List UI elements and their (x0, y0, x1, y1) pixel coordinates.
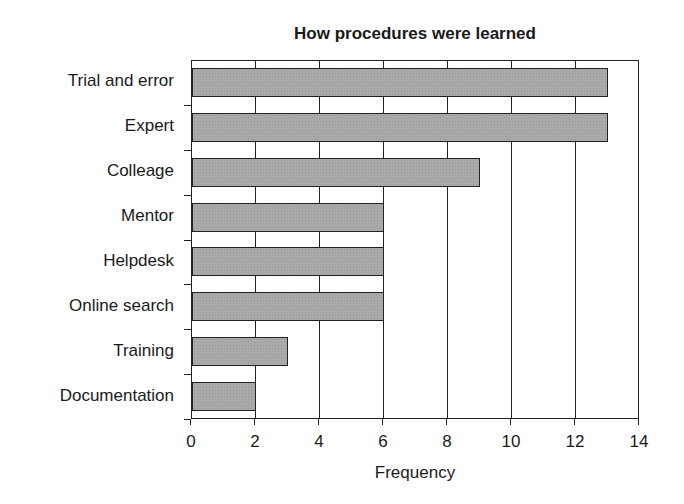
category-label: Mentor (121, 206, 174, 226)
x-tick-label: 4 (299, 432, 339, 452)
category-label: Training (113, 341, 174, 361)
x-tick-label: 8 (427, 432, 467, 452)
x-tick-label: 12 (555, 432, 595, 452)
y-tick (184, 150, 191, 151)
x-tick (638, 419, 639, 425)
bar (192, 203, 384, 232)
x-tick-label: 0 (171, 432, 211, 452)
category-label: Online search (69, 296, 174, 316)
category-label: Trial and error (68, 71, 174, 91)
bar (192, 247, 384, 276)
chart-title: How procedures were learned (191, 24, 639, 44)
x-tick (446, 419, 447, 425)
category-label: Expert (125, 116, 174, 136)
y-tick (184, 195, 191, 196)
y-tick (184, 240, 191, 241)
y-tick (184, 284, 191, 285)
x-tick-label: 2 (235, 432, 275, 452)
bar (192, 68, 608, 97)
y-tick (184, 374, 191, 375)
category-label: Helpdesk (103, 251, 174, 271)
y-tick (184, 419, 191, 420)
x-tick (318, 419, 319, 425)
x-tick-label: 14 (619, 432, 659, 452)
x-tick-label: 10 (491, 432, 531, 452)
x-tick-label: 6 (363, 432, 403, 452)
bar (192, 337, 288, 366)
category-label: Colleage (107, 161, 174, 181)
y-tick (184, 105, 191, 106)
bar (192, 382, 256, 411)
plot-area (191, 60, 639, 419)
y-tick (184, 329, 191, 330)
bar (192, 113, 608, 142)
x-tick (574, 419, 575, 425)
x-tick (254, 419, 255, 425)
x-tick (510, 419, 511, 425)
x-axis-title: Frequency (191, 463, 639, 483)
bar (192, 292, 384, 321)
bar (192, 158, 480, 187)
category-label: Documentation (60, 386, 174, 406)
x-tick (382, 419, 383, 425)
